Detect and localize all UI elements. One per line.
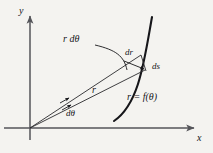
radius-ray-upper [30, 55, 141, 128]
dr-arrow [124, 61, 144, 69]
diagram-canvas [0, 0, 213, 153]
polar-diagram-figure: y x r dθ dr ds r dθ r = f(θ) [0, 0, 213, 153]
dr-label: dr [125, 48, 133, 57]
ds-label: ds [152, 62, 160, 71]
dtheta-label: dθ [66, 109, 75, 118]
curve-equation-label: r = f(θ) [127, 92, 157, 102]
r-label: r [92, 85, 96, 95]
r-dtheta-label: r dθ [63, 34, 79, 44]
y-axis-label: y [19, 6, 23, 16]
dtheta-tick-upper [60, 98, 69, 103]
r-dtheta-leader [95, 45, 127, 70]
x-axis-label: x [197, 133, 201, 143]
